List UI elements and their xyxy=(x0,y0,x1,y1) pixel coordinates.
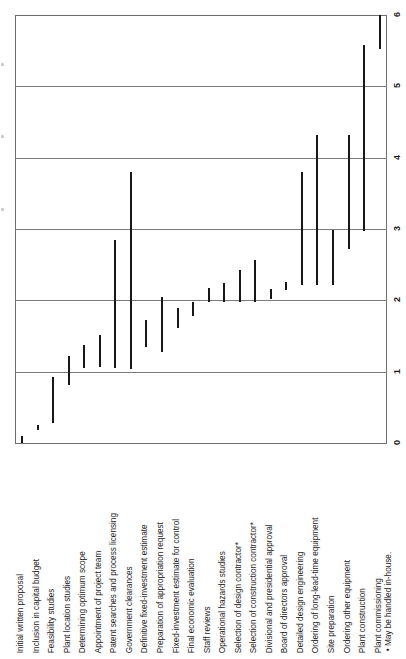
bar xyxy=(270,289,272,299)
bar xyxy=(285,282,287,291)
gridline-1 xyxy=(15,372,387,373)
bar xyxy=(192,302,194,316)
bar xyxy=(21,436,23,443)
category-label: Ordering of long-lead-time equipment xyxy=(312,517,320,653)
bar xyxy=(348,135,350,249)
bar xyxy=(145,320,147,346)
category-label: Feasibility studies xyxy=(48,588,56,653)
y-tick-label-3: 3 xyxy=(393,220,402,238)
category-label: Patent searches and process licensing xyxy=(110,513,118,653)
gridline-2 xyxy=(15,300,387,301)
bar xyxy=(99,335,101,368)
category-label: Staff reviews xyxy=(203,606,211,653)
category-label: Ordering other equipment xyxy=(343,560,351,653)
category-label: Government clearances xyxy=(126,566,134,653)
scan-artifact xyxy=(1,63,4,66)
bar xyxy=(83,345,85,369)
category-label: Fixed-investment estimate for control xyxy=(172,519,180,653)
category-label: Initial written proposal xyxy=(17,574,25,653)
y-tick-label-4: 4 xyxy=(393,148,402,166)
chart-plot-area xyxy=(15,15,387,444)
category-label: Final economic evaluation xyxy=(188,558,196,653)
category-label: Definitive fixed-investment estimate xyxy=(141,524,149,653)
plot-frame-bottom xyxy=(15,443,387,444)
category-label: Plant commissioning xyxy=(374,578,382,653)
bar xyxy=(68,356,70,385)
bar xyxy=(316,135,318,285)
category-label: Appointment of project team xyxy=(95,551,103,653)
scan-artifact xyxy=(1,208,4,211)
bar xyxy=(177,308,179,328)
category-label: Selection of construction contractor* xyxy=(250,522,258,653)
category-label: Plant construction xyxy=(359,588,367,653)
y-tick-label-1: 1 xyxy=(393,362,402,380)
bar xyxy=(363,45,365,231)
category-label-group: Initial written proposalInclusion in cap… xyxy=(0,452,406,659)
bar xyxy=(239,270,241,301)
plot-frame-top xyxy=(15,15,387,16)
category-label: Detailed design engineering xyxy=(297,551,305,653)
bar xyxy=(254,260,256,301)
gridline-4 xyxy=(15,158,387,159)
category-label: Site preparation xyxy=(328,595,336,653)
category-label: Operational hazards studies xyxy=(219,551,227,653)
bar xyxy=(223,283,225,302)
gridline-5 xyxy=(15,86,387,87)
category-label: Plant location studies xyxy=(63,576,71,653)
bar xyxy=(332,230,334,284)
category-label: Inclusion in capital budget xyxy=(32,559,40,653)
bar xyxy=(52,377,54,423)
y-tick-label-0: 0 xyxy=(393,434,402,452)
bar xyxy=(379,15,381,49)
y-tick-label-6: 6 xyxy=(393,6,402,24)
category-label: Determining optimum scope xyxy=(79,551,87,653)
bar xyxy=(37,425,39,431)
footnote: • May be handled in-house. xyxy=(385,552,393,651)
bar xyxy=(208,288,210,302)
y-tick-label-5: 5 xyxy=(393,77,402,95)
bar xyxy=(301,172,303,285)
category-label: Board of directors approval xyxy=(281,555,289,653)
bar xyxy=(130,172,132,369)
bar xyxy=(161,297,163,352)
bar xyxy=(114,240,116,368)
category-label: Selection of design contractor* xyxy=(234,542,242,653)
y-tick-label-2: 2 xyxy=(393,291,402,309)
y-axis-tick-labels: 6543210 xyxy=(388,0,406,460)
category-label: Divisional and presidential approval xyxy=(266,524,274,653)
category-label: Preparation of appropriation request xyxy=(157,522,165,653)
scan-artifact xyxy=(1,135,4,138)
